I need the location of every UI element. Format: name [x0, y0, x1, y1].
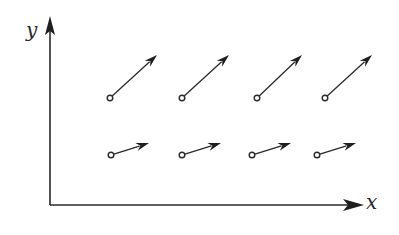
vector-arrow [107, 55, 157, 101]
vector-origin-circle-icon [179, 95, 185, 101]
upper-row [107, 55, 372, 101]
vector-origin-circle-icon [314, 152, 320, 158]
vector-origin-circle-icon [322, 95, 328, 101]
vector-arrow [179, 55, 229, 101]
vector-shaft [185, 146, 212, 154]
vector-arrow [254, 55, 302, 101]
vector-shaft [320, 146, 347, 154]
vector-diagram [0, 0, 399, 235]
vector-shaft [255, 146, 282, 154]
vector-field [107, 55, 372, 158]
vector-shaft [112, 62, 149, 96]
lower-row [108, 143, 356, 158]
vector-origin-circle-icon [254, 95, 260, 101]
vector-origin-circle-icon [107, 95, 113, 101]
y-axis-label: y [26, 20, 37, 40]
vector-origin-circle-icon [108, 152, 114, 158]
x-axis-label: x [366, 192, 377, 212]
vector-origin-circle-icon [179, 152, 185, 158]
vector-arrow [322, 55, 372, 101]
vector-arrow [314, 143, 356, 158]
vector-shaft [259, 62, 295, 96]
vector-arrow [249, 143, 291, 158]
vector-origin-circle-icon [249, 152, 255, 158]
vector-shaft [327, 62, 364, 96]
vector-shaft [184, 62, 221, 96]
vector-arrow [179, 143, 221, 158]
vector-shaft [114, 146, 140, 154]
vector-arrow [108, 143, 149, 158]
